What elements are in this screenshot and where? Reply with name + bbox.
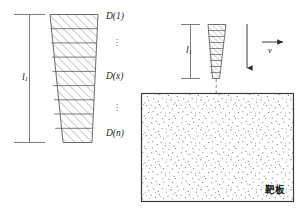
ellipsis-dot: . [112,107,122,110]
segment-ellipsis-upper: . . . [112,36,122,46]
left-length-subscript: 1 [25,75,28,82]
figure-canvas: l1 D(1) . . . D(x) . . . D(n) l1 v 靶板 [0,0,306,213]
right-rod-body [208,25,226,79]
diagram-svg [0,0,306,213]
target-plate-label: 靶板 [265,182,285,196]
right-length-label: l1 [186,45,192,56]
segment-label-last: D(n) [106,129,124,139]
segment-label-middle: D(x) [106,72,123,82]
velocity-label: v [268,46,272,55]
ellipsis-dot: . [112,42,122,45]
left-dimension-line [14,15,45,143]
right-length-subscript: 1 [189,48,192,55]
left-rod-body [50,15,98,143]
segment-ellipsis-lower: . . . [112,101,122,111]
left-length-label: l1 [22,72,28,83]
segment-label-first: D(1) [106,12,124,22]
